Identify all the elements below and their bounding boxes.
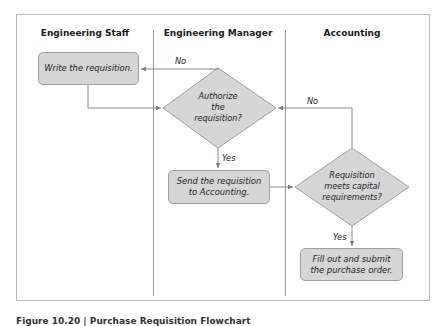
process-fill-label-line1: Fill out and submit (312, 254, 390, 265)
edge-meets-no-to-authorize (278, 108, 352, 148)
decision-authorize-line1: Authorize (178, 91, 258, 102)
decision-authorize-line3: requisition? (178, 113, 258, 124)
process-send-label-line1: Send the requisition (177, 176, 261, 187)
process-send-requisition: Send the requisition to Accounting. (168, 170, 270, 204)
decision-authorize-line2: the (178, 102, 258, 113)
decision-meets-label: Requisition meets capital requirements? (307, 170, 397, 203)
decision-authorize-label: Authorize the requisition? (178, 91, 258, 124)
decision-meets-line1: Requisition (307, 170, 397, 181)
process-fill-purchase-order: Fill out and submit the purchase order. (300, 248, 403, 281)
edge-label-meets-no: No (307, 96, 318, 106)
process-send-label-line2: to Accounting. (189, 187, 250, 198)
decision-meets-line3: requirements? (307, 192, 397, 203)
decision-meets-line2: meets capital (307, 181, 397, 192)
process-fill-label-line2: the purchase order. (310, 265, 392, 276)
edge-label-meets-yes: Yes (333, 232, 346, 242)
edge-authorize-no-to-write (141, 68, 218, 69)
process-write-label: Write the requisition. (44, 63, 132, 74)
edge-write-to-authorize (88, 85, 161, 108)
edge-label-authorize-yes: Yes (222, 153, 235, 163)
figure-caption: Figure 10.20 | Purchase Requisition Flow… (16, 316, 250, 326)
edge-label-authorize-no: No (175, 56, 186, 66)
process-write-requisition: Write the requisition. (38, 52, 139, 85)
